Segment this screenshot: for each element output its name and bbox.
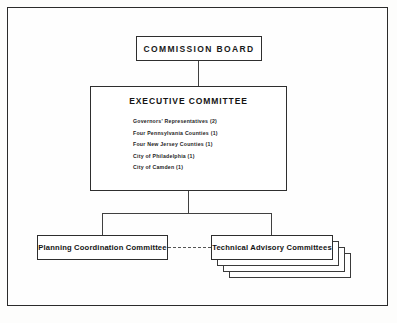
dashed-link-planning-to-technical: [168, 247, 211, 248]
node-technical-advisory-committees[interactable]: Technical Advisory Committees: [211, 235, 333, 260]
connector-drop-to-planning: [102, 213, 103, 235]
org-chart-root: COMMISSION BOARD EXECUTIVE COMMITTEE Gov…: [0, 0, 397, 323]
node-executive-committee[interactable]: EXECUTIVE COMMITTEE Governors' Represent…: [90, 86, 287, 191]
connector-branch-bar: [102, 213, 272, 214]
commission-board-label: COMMISSION BOARD: [144, 44, 255, 54]
connector-executive-trunk: [188, 191, 189, 213]
list-item: Governors' Representatives (2): [91, 116, 286, 128]
list-item: Four New Jersey Counties (1): [91, 139, 286, 151]
node-commission-board[interactable]: COMMISSION BOARD: [136, 36, 262, 61]
connector-drop-to-technical: [271, 213, 272, 235]
executive-committee-member-list: Governors' Representatives (2) Four Penn…: [91, 116, 286, 174]
connector-board-to-executive: [198, 61, 199, 86]
technical-advisory-committees-label: Technical Advisory Committees: [212, 243, 332, 252]
executive-committee-label: EXECUTIVE COMMITTEE: [91, 96, 286, 106]
node-technical-advisory-committees-stack[interactable]: Technical Advisory Committees: [211, 235, 361, 283]
planning-coordination-committee-label: Planning Coordination Committee: [38, 243, 166, 252]
list-item: Four Pennsylvania Counties (1): [91, 128, 286, 140]
list-item: City of Philadelphia (1): [91, 151, 286, 163]
node-planning-coordination-committee[interactable]: Planning Coordination Committee: [37, 235, 168, 260]
list-item: City of Camden (1): [91, 162, 286, 174]
